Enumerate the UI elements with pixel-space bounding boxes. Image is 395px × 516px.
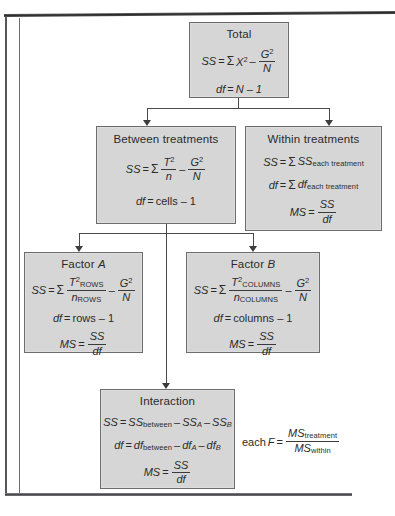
node-interaction: Interaction SS = SSbetween – SSA – SSB d…	[100, 389, 235, 489]
equals-sign: =	[78, 339, 84, 350]
df-expression: N – 1	[236, 84, 262, 95]
df-a-subscript: A	[191, 443, 196, 452]
node-total: Total SS = Σ X2 – G2 N df = N – 1	[189, 22, 289, 98]
page-border-left-inner	[19, 18, 20, 496]
g-squared-over-n-fraction: G2 N	[118, 277, 135, 304]
node-between-treatments: Between treatments SS = Σ T2 n – G2 N df…	[96, 126, 236, 224]
ss-over-df-fraction: SS df	[88, 331, 107, 357]
minus-sign: –	[198, 440, 204, 451]
node-factor-a-ss-equation: SS = Σ T2ROWS nROWS – G2 N	[25, 276, 142, 304]
factor-b-letter: B	[268, 258, 276, 270]
t-columns-squared-over-n-columns-fraction: T2COLUMNS nCOLUMNS	[229, 276, 282, 304]
df-b-subscript: B	[216, 443, 221, 452]
node-interaction-title: Interaction	[101, 395, 234, 407]
node-factor-b-ms-equation: MS = SS df	[187, 331, 319, 357]
ms-label: MS	[60, 339, 77, 350]
ss-a-term: SS	[182, 416, 197, 428]
ss-label: SS	[194, 285, 209, 296]
node-within-df-equation: df = Σ dfeach treatment	[246, 179, 381, 191]
ss-label: SS	[126, 164, 141, 175]
ss-over-df-fraction: SS df	[318, 199, 337, 225]
ms-label: MS	[229, 339, 246, 350]
node-between-df-equation: df = cells – 1	[97, 196, 235, 207]
n-subscript-rows: ROWS	[78, 295, 102, 304]
t-variable: T	[231, 276, 238, 288]
ms-within-term: MS	[294, 442, 311, 454]
equals-sign: =	[225, 313, 231, 324]
node-factor-b-df-equation: df = columns – 1	[187, 313, 319, 324]
ss-label: SS	[202, 56, 217, 67]
equals-sign: =	[248, 339, 254, 350]
equals-sign: =	[48, 285, 54, 296]
g-squared-over-n-fraction: G2 N	[259, 48, 276, 75]
n-variable: N	[120, 291, 132, 304]
t-rows-squared-over-n-rows-fraction: T2ROWS nROWS	[67, 276, 106, 304]
node-within-treatments: Within treatments SS = Σ SSeach treatmen…	[245, 126, 382, 231]
n-variable: N	[191, 170, 203, 183]
g-exponent: 2	[128, 276, 132, 285]
ss-a-subscript: A	[197, 420, 202, 429]
df-label: df	[269, 180, 278, 191]
equals-sign: =	[308, 207, 314, 218]
node-interaction-ss-equation: SS = SSbetween – SSA – SSB	[101, 417, 234, 429]
equals-sign: =	[280, 180, 286, 191]
df-expression: columns – 1	[233, 313, 292, 324]
g-variable: G	[261, 48, 270, 60]
equals-sign: =	[210, 285, 216, 296]
page-border-bottom	[5, 493, 352, 496]
ss-label: SS	[263, 157, 278, 168]
node-total-ss-equation: SS = Σ X2 – G2 N	[190, 48, 288, 75]
node-between-ss-equation: SS = Σ T2 n – G2 N	[97, 156, 235, 183]
equals-sign: =	[125, 440, 131, 451]
df-label: df	[136, 196, 145, 207]
n-lowercase-variable: n	[164, 170, 174, 183]
ms-treatment-over-ms-within-fraction: MStreatment MSwithin	[286, 428, 339, 455]
x-exponent: 2	[243, 55, 247, 64]
ss-label: SS	[31, 285, 46, 296]
ss-over-df-fraction: SS df	[172, 460, 191, 486]
t-exponent: 2	[170, 155, 174, 164]
g-exponent: 2	[305, 276, 309, 285]
node-total-title: Total	[190, 28, 288, 40]
factor-a-title-prefix: Factor	[61, 258, 98, 270]
df-subscript: each treatment	[307, 182, 358, 191]
node-factor-a-ms-equation: MS = SS df	[25, 331, 142, 357]
node-interaction-ms-equation: MS = SS df	[101, 460, 234, 486]
df-denominator: df	[90, 345, 103, 358]
equals-sign: =	[64, 313, 70, 324]
connector-to-interaction	[166, 233, 167, 385]
df-label: df	[216, 84, 225, 95]
node-factor-a-df-equation: df = rows – 1	[25, 313, 142, 324]
ss-numerator: SS	[88, 331, 107, 345]
g-squared-over-n-fraction: G2 N	[188, 156, 205, 183]
node-between-title: Between treatments	[97, 133, 235, 145]
equals-sign: =	[120, 417, 126, 428]
equals-sign: =	[218, 56, 224, 67]
g-variable: G	[297, 276, 306, 288]
df-b-term: df	[207, 439, 216, 451]
ss-numerator: SS	[318, 199, 337, 213]
df-denominator: df	[174, 473, 187, 486]
minus-sign: –	[174, 440, 180, 451]
ss-over-df-fraction: SS df	[257, 331, 276, 357]
sigma-symbol: Σ	[57, 284, 64, 296]
node-factor-a: Factor A SS = Σ T2ROWS nROWS – G2 N df =…	[24, 252, 143, 353]
node-within-ms-equation: MS = SS df	[246, 199, 381, 225]
g-exponent: 2	[269, 47, 273, 56]
ss-numerator: SS	[257, 331, 276, 345]
minus-sign: –	[204, 417, 210, 428]
ms-treatment-term: MS	[288, 427, 305, 439]
t-squared-over-n-fraction: T2 n	[161, 156, 176, 183]
minus-sign: –	[250, 56, 256, 67]
n-variable: N	[261, 62, 273, 75]
minus-sign: –	[109, 285, 115, 296]
node-total-df-equation: df = N – 1	[190, 84, 288, 95]
ms-label: MS	[144, 467, 161, 478]
df-between-subscript: between	[143, 443, 172, 452]
ss-b-subscript: B	[227, 420, 232, 429]
df-between-term: df	[134, 439, 143, 451]
sigma-symbol: Σ	[227, 55, 234, 67]
connector-total-horizontal	[147, 108, 329, 109]
ms-within-subscript: within	[311, 447, 331, 456]
node-factor-b-title: Factor B	[187, 258, 319, 270]
